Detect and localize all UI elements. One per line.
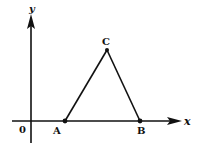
segment-CB xyxy=(107,50,140,121)
segment-AC xyxy=(65,50,107,121)
point-B xyxy=(138,119,143,124)
point-B-label: B xyxy=(137,125,145,136)
y-axis-label: y xyxy=(28,3,36,14)
point-C-label: C xyxy=(102,36,110,47)
point-A-label: A xyxy=(52,125,61,136)
point-C xyxy=(105,48,109,52)
coordinate-diagram: y x 0 A B C xyxy=(0,0,200,149)
point-A xyxy=(63,119,68,124)
x-axis-label: x xyxy=(183,115,191,128)
origin-label: 0 xyxy=(19,124,26,135)
